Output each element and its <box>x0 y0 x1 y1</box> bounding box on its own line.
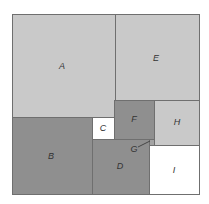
label-i: I <box>173 165 176 175</box>
label-g: G <box>130 144 137 154</box>
g-pointer-line <box>0 0 209 204</box>
label-d: D <box>117 161 124 171</box>
label-f: F <box>131 114 137 124</box>
label-a: A <box>59 61 65 71</box>
label-e: E <box>153 53 159 63</box>
label-b: B <box>48 151 54 161</box>
label-c: C <box>100 123 107 133</box>
label-h: H <box>174 117 181 127</box>
